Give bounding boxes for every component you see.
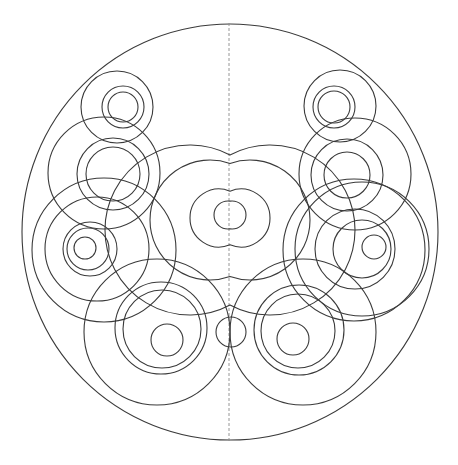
top-right-inner-ring — [318, 91, 350, 123]
mid-right-inner-ring — [362, 235, 386, 259]
bottom-right-ring-2 — [261, 294, 335, 368]
bottom-right-ring-3 — [254, 285, 344, 375]
upper-right-inner-ring — [324, 152, 370, 198]
bottom-left-inner-ring — [151, 324, 183, 356]
center-inner-lobed-ring — [214, 201, 246, 229]
outer-boundary-circle — [22, 24, 438, 440]
upper-left-large-ring — [48, 117, 160, 229]
upper-right-middle-ring — [311, 139, 383, 211]
bottom-left-ring-2 — [123, 290, 201, 368]
center-second-lobed-ring — [190, 189, 270, 247]
boundary-layer — [22, 24, 438, 440]
diagram-canvas — [0, 0, 458, 465]
upper-right-large-ring — [299, 118, 411, 230]
top-right-outer-ring — [304, 70, 376, 142]
circle-pattern-diagram — [0, 0, 458, 465]
mid-left-ring-4 — [45, 197, 149, 301]
center-third-lobed-ring — [150, 160, 310, 280]
bottom-right-inner-ring — [277, 323, 309, 355]
mid-right-ring-5 — [283, 179, 425, 321]
mid-left-ring-2 — [67, 228, 109, 270]
circles-layer — [32, 70, 429, 405]
bottom-left-ring-3 — [115, 282, 207, 374]
bottom-left-large-ring — [84, 259, 230, 405]
mid-left-inner-ring — [74, 237, 96, 259]
